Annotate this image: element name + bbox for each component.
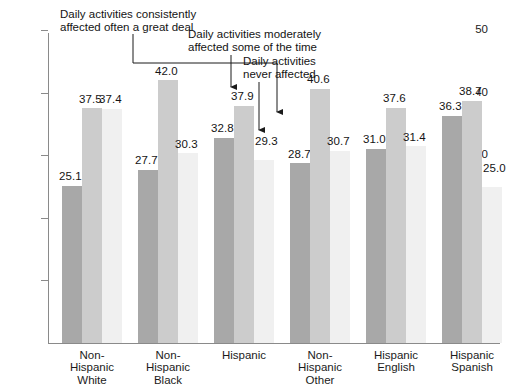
value-label-g4-s0: 31.0 [363,134,386,146]
value-label-g5-s2: 25.0 [483,163,506,175]
bar-g5-s0[interactable] [442,116,462,343]
value-label-g5-s0: 36.3 [439,101,462,113]
value-label-g4-s2: 31.4 [403,132,426,144]
bar-g0-s0[interactable] [62,186,82,343]
bar-g1-s1[interactable] [158,80,178,343]
bar-g3-s1[interactable] [310,89,330,343]
x-axis-line [48,343,500,344]
bar-g4-s0[interactable] [366,149,386,343]
value-label-g1-s0: 27.7 [135,155,158,167]
bar-group-5: 36.338.725.0 [442,30,502,343]
category-label-5: Hispanic Spanish [427,349,517,374]
annotation-consistently-affected: Daily activities consistently affected o… [60,8,196,34]
bar-group-0: 25.137.537.4 [62,30,122,343]
bar-g1-s0[interactable] [138,170,158,343]
bar-g0-s2[interactable] [102,109,122,343]
cropped-caption-remnant [0,0,517,4]
chart-canvas: 1020304050 25.137.537.427.742.030.332.83… [0,0,517,389]
y-tick-20 [41,218,48,219]
bar-g2-s1[interactable] [234,106,254,343]
value-label-g0-s0: 25.1 [59,171,82,183]
annotation-never-affected: Daily activities never affected [243,55,316,81]
bar-g2-s0[interactable] [214,138,234,343]
bar-g2-s2[interactable] [254,160,274,343]
y-tick-30 [41,155,48,156]
value-label-g3-s0: 28.7 [288,149,311,161]
value-label-g1-s1: 42.0 [155,66,178,78]
bar-g5-s1[interactable] [462,101,482,343]
y-axis-line [48,33,49,343]
y-tick-10 [41,280,48,281]
bar-group-4: 31.037.631.4 [366,30,426,343]
y-tick-40 [41,93,48,94]
value-label-g2-s0: 32.8 [211,123,234,135]
bar-g4-s2[interactable] [406,146,426,343]
value-label-g0-s2: 37.4 [99,94,122,106]
bar-g5-s2[interactable] [482,187,502,344]
bar-g3-s2[interactable] [330,151,350,343]
bar-g1-s2[interactable] [178,153,198,343]
annotation-moderately-affected: Daily activities moderately affected som… [188,28,321,54]
value-label-g3-s2: 30.7 [327,136,350,148]
bar-group-1: 27.742.030.3 [138,30,198,343]
value-label-g5-s1: 38.7 [459,86,482,98]
value-label-g2-s1: 37.9 [231,91,254,103]
value-label-g2-s2: 29.3 [255,136,278,148]
value-label-g4-s1: 37.6 [383,93,406,105]
value-label-g1-s2: 30.3 [175,139,198,151]
bar-g0-s1[interactable] [82,108,102,343]
y-tick-50 [41,30,48,31]
bar-g3-s0[interactable] [290,163,310,343]
